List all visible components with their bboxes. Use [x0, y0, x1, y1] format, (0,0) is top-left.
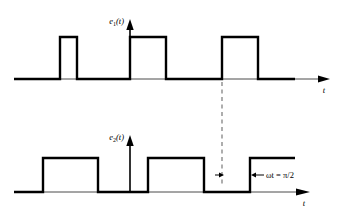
upper-vertical-axis-arrowhead	[126, 19, 133, 30]
phase-right-arrowhead-icon	[251, 172, 256, 177]
upper-signal-label: e1(t)	[109, 16, 124, 27]
upper-signal-label-suffix: (t)	[116, 16, 124, 26]
lower-time-axis-label: t	[303, 198, 306, 208]
upper-plot: t e1(t)	[14, 16, 330, 95]
lower-vertical-axis-arrowhead	[126, 135, 133, 146]
upper-waveform-trace	[14, 37, 295, 79]
lower-signal-label-suffix: (t)	[116, 132, 124, 142]
upper-time-axis-label: t	[323, 85, 326, 95]
waveform-svg: t e1(t) t e2(t)	[0, 0, 337, 216]
upper-time-axis-arrowhead	[318, 76, 330, 83]
phase-annotation: ωt = π/2	[215, 170, 294, 180]
lower-time-axis-arrowhead	[296, 189, 310, 196]
lower-signal-label: e2(t)	[109, 132, 124, 143]
waveform-figure: t e1(t) t e2(t)	[0, 0, 337, 216]
phase-shift-label: ωt = π/2	[266, 170, 294, 180]
